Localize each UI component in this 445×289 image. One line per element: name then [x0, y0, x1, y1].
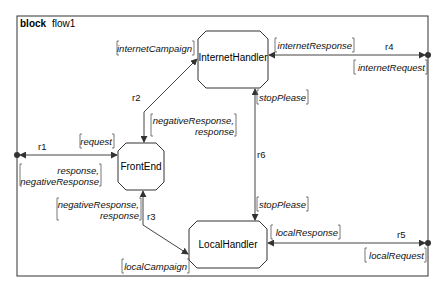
flow-item: negativeResponse,: [153, 115, 234, 126]
connector-r1[interactable]: r1 request response, negativeResponse: [14, 134, 117, 187]
block-keyword: block: [20, 18, 47, 29]
flow-item: negativeResponse: [20, 176, 99, 187]
node-internet-handler[interactable]: InternetHandler: [198, 31, 268, 88]
port-icon: [425, 240, 431, 246]
flow-item: negativeResponse,: [58, 199, 139, 210]
node-label: LocalHandler: [199, 239, 259, 250]
flow-item: internetCampaign: [117, 43, 192, 54]
connector-r5[interactable]: r5 localResponse localRequest: [268, 225, 431, 262]
block-name: flow1: [52, 18, 76, 29]
connector-label: r3: [147, 211, 155, 222]
connector-r6[interactable]: r6 stopPlease stopPlease: [255, 89, 308, 220]
flow-item: localRequest: [369, 250, 424, 261]
connector-r3[interactable]: r3 negativeResponse, response localCampa…: [57, 191, 189, 273]
connector-label: r2: [132, 92, 140, 103]
flow-item: internetResponse: [278, 40, 352, 51]
node-front-end[interactable]: FrontEnd: [118, 143, 164, 190]
flow-item: internetRequest: [358, 62, 425, 73]
connector-r4[interactable]: r4 internetResponse internetRequest: [269, 38, 431, 74]
flow-item: response,: [57, 165, 99, 176]
flow-item: stopPlease: [259, 92, 306, 103]
connector-label: r1: [38, 141, 46, 152]
connector-label: r6: [257, 149, 265, 160]
connector-label: r4: [385, 41, 393, 52]
port-icon: [14, 152, 20, 158]
connector-label: r5: [397, 229, 405, 240]
block-diagram: block flow1 InternetHandler FrontEnd Loc…: [0, 0, 445, 289]
node-label: InternetHandler: [199, 52, 269, 63]
flow-item: localCampaign: [124, 261, 187, 272]
port-icon: [425, 52, 431, 58]
flow-item: response: [195, 126, 234, 137]
node-label: FrontEnd: [120, 161, 161, 172]
flow-item: stopPlease: [259, 199, 306, 210]
flow-item: request: [80, 136, 112, 147]
flow-item: response: [100, 210, 139, 221]
node-local-handler[interactable]: LocalHandler: [189, 221, 267, 268]
flow-item: localResponse: [276, 227, 338, 238]
